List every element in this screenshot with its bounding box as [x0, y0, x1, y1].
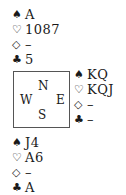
- spade-icon: ♠: [12, 7, 25, 22]
- east-spades-row: ♠ KQ: [74, 67, 114, 82]
- spade-icon: ♠: [12, 135, 25, 150]
- south-hearts-row: ♡ A6: [12, 150, 44, 165]
- south-spades-cards: J4: [25, 135, 39, 150]
- north-hand: ♠ A ♡ 1087 ◇ – ♣ 5: [12, 7, 60, 67]
- diamond-icon: ◇: [74, 97, 87, 112]
- north-clubs-row: ♣ 5: [12, 52, 60, 67]
- north-clubs-cards: 5: [25, 52, 34, 67]
- south-diamonds-cards: –: [25, 165, 32, 180]
- south-hearts-cards: A6: [25, 150, 44, 165]
- club-icon: ♣: [74, 112, 87, 127]
- south-clubs-cards: A: [25, 180, 35, 195]
- heart-icon: ♡: [12, 22, 25, 37]
- compass-south-label: S: [38, 109, 46, 121]
- diamond-icon: ◇: [12, 37, 25, 52]
- east-clubs-cards: –: [87, 112, 94, 127]
- club-icon: ♣: [12, 52, 25, 67]
- north-diamonds-row: ◇ –: [12, 37, 60, 52]
- heart-icon: ♡: [74, 82, 87, 97]
- south-spades-row: ♠ J4: [12, 135, 44, 150]
- north-spades-cards: A: [25, 7, 35, 22]
- south-hand: ♠ J4 ♡ A6 ◇ – ♣ A: [12, 135, 44, 195]
- east-diamonds-cards: –: [87, 97, 94, 112]
- compass-box: N W E S: [13, 71, 70, 128]
- compass-west-label: W: [20, 94, 32, 106]
- heart-icon: ♡: [12, 150, 25, 165]
- spade-icon: ♠: [74, 67, 87, 82]
- east-hearts-row: ♡ KQJ: [74, 82, 114, 97]
- north-hearts-row: ♡ 1087: [12, 22, 60, 37]
- east-hearts-cards: KQJ: [87, 82, 114, 97]
- north-spades-row: ♠ A: [12, 7, 60, 22]
- east-diamonds-row: ◇ –: [74, 97, 114, 112]
- east-spades-cards: KQ: [87, 67, 108, 82]
- south-diamonds-row: ◇ –: [12, 165, 44, 180]
- east-clubs-row: ♣ –: [74, 112, 114, 127]
- compass-east-label: E: [56, 94, 65, 106]
- club-icon: ♣: [12, 180, 25, 195]
- south-clubs-row: ♣ A: [12, 180, 44, 195]
- east-hand: ♠ KQ ♡ KQJ ◇ – ♣ –: [74, 67, 114, 127]
- diamond-icon: ◇: [12, 165, 25, 180]
- north-hearts-cards: 1087: [25, 22, 60, 37]
- north-diamonds-cards: –: [25, 37, 32, 52]
- compass-north-label: N: [38, 80, 49, 92]
